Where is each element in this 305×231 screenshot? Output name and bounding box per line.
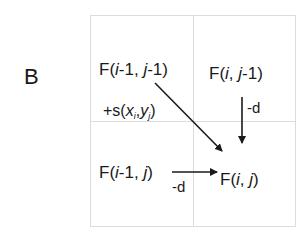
cell-top-left-label: F(i-1, j-1): [99, 60, 168, 79]
vertical-arrow-label: -d: [247, 99, 260, 116]
diagonal-arrow-label: +s(xi,yj): [103, 102, 155, 121]
cell-bottom-right-label: F(i, j): [220, 170, 259, 189]
dp-recurrence-diagram: B F(i-1, j-1) F(i, j-1) F(i-1, j) F(i, j…: [0, 0, 305, 231]
panel-label: B: [24, 64, 39, 89]
diagonal-arrow: [155, 83, 222, 151]
cell-bottom-left-label: F(i-1, j): [99, 163, 153, 182]
horizontal-arrow-label: -d: [172, 178, 185, 195]
cell-top-right-label: F(i, j-1): [209, 64, 263, 83]
